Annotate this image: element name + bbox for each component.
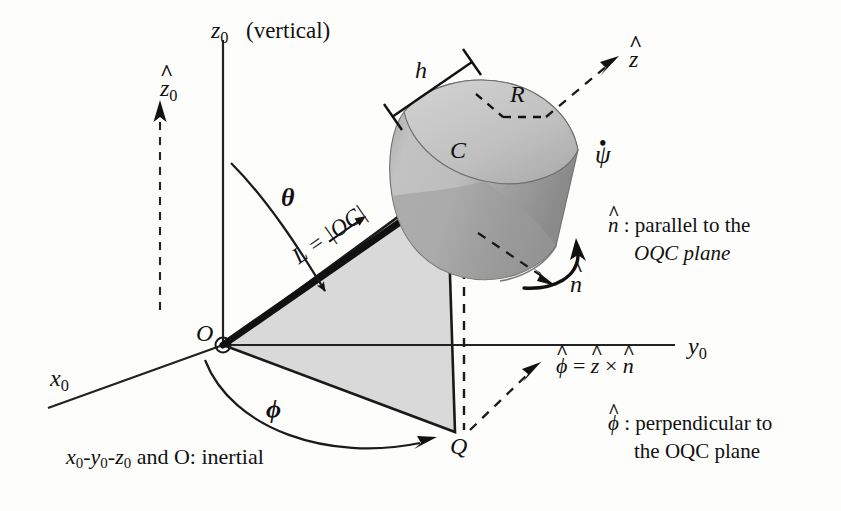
note-phi-hat-definition: ^ϕ = ^z × ^n (556, 355, 634, 377)
point-label-Q: Q (450, 434, 467, 458)
axis-label-y0: y0 (688, 334, 707, 362)
z-hat-arrowhead (600, 56, 619, 76)
axis-note-vertical: (vertical) (246, 19, 330, 42)
hat-accent-n-note: ^ (608, 200, 619, 226)
axis-label-z0: z0 (211, 18, 229, 46)
note-phi-hat-line1: ^ϕ : perpendicular to (608, 410, 772, 438)
phi-hat-shaft (470, 372, 530, 430)
dimension-label-h: h (415, 58, 427, 82)
unit-vector-z-hat-label: ^z (629, 47, 638, 71)
hat-accent-phi-note: ^ (608, 398, 619, 424)
dot-accent-psi: • (595, 133, 611, 153)
cylinder-body (390, 80, 578, 281)
hat-accent-z: ^ (629, 33, 638, 56)
note-n-hat-line1: ^n : parallel to the (608, 212, 750, 240)
angle-label-theta: θ (281, 185, 295, 211)
hat-accent-z0: ^ (160, 62, 169, 85)
point-label-O: O (196, 321, 213, 345)
hat-accent-phi-def: ^ (556, 342, 567, 363)
axis-label-x0: x0 (50, 366, 69, 394)
diagram-canvas: z0 (vertical) ^z0 ^z ^n y0 x0 O C Q θ ϕ (0, 0, 841, 511)
note-n-hat-line2: OQC plane (608, 240, 750, 268)
phi-hat-arrowhead (522, 362, 541, 382)
note-phi-hat-line2: the OQC plane (608, 438, 772, 466)
angle-label-phi: ϕ (266, 397, 281, 423)
angle-arc-theta (231, 163, 325, 291)
note-phi-hat: ^ϕ : perpendicular to the OQC plane (608, 410, 772, 465)
unit-vector-n-hat-label: ^n (570, 272, 582, 296)
angle-label-psi-dot: •ψ (595, 142, 611, 167)
hat-accent-n: ^ (570, 258, 582, 281)
axis-x0 (48, 345, 223, 408)
unit-vector-z0-hat-label: ^z0 (160, 76, 178, 104)
dimension-label-R: R (510, 82, 525, 106)
hat-accent-n-def: ^ (623, 342, 634, 363)
hat-accent-z-def: ^ (591, 342, 600, 363)
caption-inertial-frame: x0-y0-z0 and O: inertial (66, 446, 264, 471)
note-n-hat: ^n : parallel to the OQC plane (608, 212, 750, 267)
point-label-C: C (450, 138, 466, 162)
